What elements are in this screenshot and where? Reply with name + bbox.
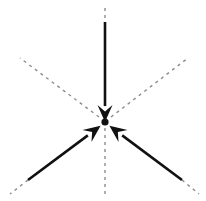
figure-background	[0, 0, 206, 201]
convergence-point	[101, 118, 108, 125]
vector-diagram-figure	[0, 0, 206, 201]
vector-diagram-canvas	[0, 0, 206, 201]
